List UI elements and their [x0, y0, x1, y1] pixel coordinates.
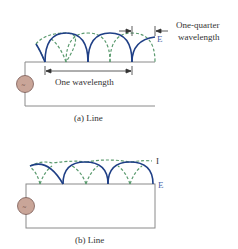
- voltage-label-b: E: [158, 180, 164, 190]
- quarter-label-line2: wavelength: [178, 32, 220, 42]
- source-symbol-a: ~: [22, 81, 26, 89]
- current-wave-b: [30, 160, 152, 184]
- one-wavelength-marker: [45, 66, 132, 75]
- line-b-wires: [26, 184, 155, 228]
- current-label-b: I: [156, 156, 159, 166]
- panel-b: I E ~ (b) Line: [18, 156, 165, 245]
- source-symbol-b: ~: [23, 203, 27, 211]
- voltage-wave-a: [36, 33, 155, 62]
- one-wavelength-label: One wavelength: [55, 77, 114, 87]
- voltage-label-a: E: [157, 34, 163, 44]
- panel-a: One-quarter wavelength E One wavelength …: [17, 20, 220, 123]
- caption-a: (a) Line: [74, 113, 103, 123]
- caption-b: (b) Line: [75, 235, 104, 245]
- standing-wave-diagram: One-quarter wavelength E One wavelength …: [0, 0, 238, 249]
- quarter-label-line1: One-quarter: [176, 20, 219, 30]
